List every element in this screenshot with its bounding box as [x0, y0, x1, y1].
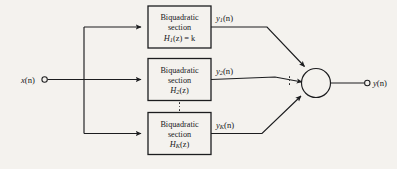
- section-k-formula: HK(z): [148, 140, 211, 150]
- input-terminal-circle: [42, 77, 47, 82]
- section-2-formula: H2(z): [148, 86, 211, 96]
- section-1-output-label: y1(n): [216, 13, 233, 23]
- summing-inputs-ellipsis: [288, 76, 291, 85]
- section-k-title-line2: section: [148, 130, 211, 140]
- figure-canvas: x(n) y(n) Biquadratic section H1(z) = k …: [0, 0, 397, 169]
- summing-node-circle: [302, 69, 331, 98]
- section-2-title-line2: section: [148, 76, 211, 86]
- section-2-title-line1: Biquadratic: [148, 66, 211, 76]
- section-k-output-label: yK(n): [216, 120, 234, 130]
- sections-ellipsis: [178, 102, 181, 111]
- section-1-formula: H1(z) = k: [148, 34, 211, 44]
- output-wire-section-1: [211, 27, 305, 67]
- section-2-output-label: y2(n): [216, 66, 233, 76]
- input-label: x(n): [21, 75, 35, 85]
- output-label: y(n): [373, 78, 387, 88]
- section-1-title-line2: section: [148, 23, 211, 33]
- section-1-title-line1: Biquadratic: [148, 13, 211, 23]
- section-k-title-line1: Biquadratic: [148, 120, 211, 130]
- output-terminal-circle: [365, 80, 370, 85]
